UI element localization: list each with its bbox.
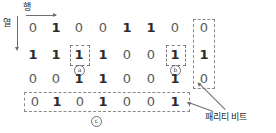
bit-r1-c3: 1: [96, 48, 110, 62]
bit-r1-c6: 1: [168, 48, 182, 62]
bit-r0-c6: 0: [168, 21, 182, 35]
pointer-to-column-parity-box: [188, 102, 214, 112]
marker-c: c: [91, 116, 102, 127]
bit-r0-c1: 1: [49, 21, 63, 35]
col-parity-c5: 0: [144, 95, 158, 109]
bit-r1-c2: 1: [72, 48, 86, 62]
bit-r2-c5: 0: [144, 72, 158, 86]
row-parity-r0: 0: [197, 21, 211, 35]
bit-r1-c0: 1: [26, 48, 40, 62]
bit-r2-c3: 1: [96, 72, 110, 86]
row-direction-arrow: [26, 15, 56, 16]
bit-r0-c2: 0: [72, 21, 86, 35]
col-parity-c3: 1: [96, 95, 110, 109]
parity-bit-caption: 패리티 비트: [205, 112, 246, 122]
col-parity-c0: 0: [28, 95, 42, 109]
bit-r1-c4: 0: [120, 48, 134, 62]
bit-r2-c0: 0: [26, 72, 40, 86]
column-axis-label: 열: [3, 19, 11, 28]
bit-r2-c1: 0: [49, 72, 63, 86]
bit-r1-c5: 0: [144, 48, 158, 62]
column-direction-arrow: [17, 16, 18, 47]
row-axis-label: 행: [23, 3, 31, 12]
bit-r2-c4: 0: [120, 72, 134, 86]
bit-r0-c3: 0: [96, 21, 110, 35]
bit-r0-c0: 0: [26, 21, 40, 35]
col-parity-c6: 1: [168, 95, 182, 109]
bit-r0-c5: 1: [144, 21, 158, 35]
bit-r0-c4: 1: [120, 21, 134, 35]
row-parity-r1: 1: [197, 48, 211, 62]
parity-bit-diagram: 행 열 0 1 0 0 1 1 0 0 1 1 1 a 1 0 0 1 b 1 …: [0, 0, 276, 133]
col-parity-c2: 0: [73, 95, 87, 109]
bit-r2-c6: 1: [168, 72, 182, 86]
col-parity-c1: 1: [50, 95, 64, 109]
bit-r1-c1: 1: [49, 48, 63, 62]
col-parity-c4: 0: [120, 95, 134, 109]
bit-r2-c2: 1: [72, 72, 86, 86]
